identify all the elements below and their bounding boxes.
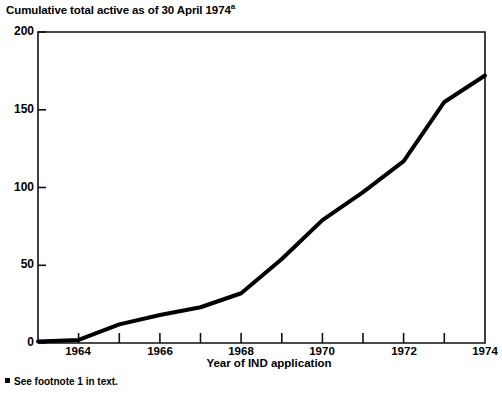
y-tick-label-150: 150 (0, 102, 34, 116)
x-tick-label-1966: 1966 (130, 345, 190, 357)
plot-frame (38, 32, 485, 343)
x-axis-label: Year of IND application (0, 357, 502, 369)
x-axis-label-text: Year of IND application (206, 357, 331, 369)
chart-canvas (0, 0, 502, 396)
y-tick-label-100: 100 (0, 180, 34, 194)
data-series-cumulative-active-inds (38, 76, 485, 342)
footnote: See footnote 1 in text. (5, 376, 118, 387)
y-tick-label-50: 50 (0, 257, 34, 271)
x-axis-ticks (79, 333, 445, 343)
figure-cumulative-active-inds: Cumulative total active as of 30 April 1… (0, 0, 502, 396)
x-tick-label-1964: 1964 (48, 345, 108, 357)
x-tick-label-1968: 1968 (211, 345, 271, 357)
y-tick-label-200: 200 (0, 24, 34, 38)
y-tick-label-0: 0 (0, 335, 34, 349)
x-tick-label-1972: 1972 (374, 345, 434, 357)
x-tick-label-1974: 1974 (455, 345, 502, 357)
footnote-marker-icon (5, 378, 10, 383)
x-tick-label-1970: 1970 (292, 345, 352, 357)
y-axis-ticks (38, 32, 46, 343)
footnote-text: See footnote 1 in text. (14, 376, 118, 387)
